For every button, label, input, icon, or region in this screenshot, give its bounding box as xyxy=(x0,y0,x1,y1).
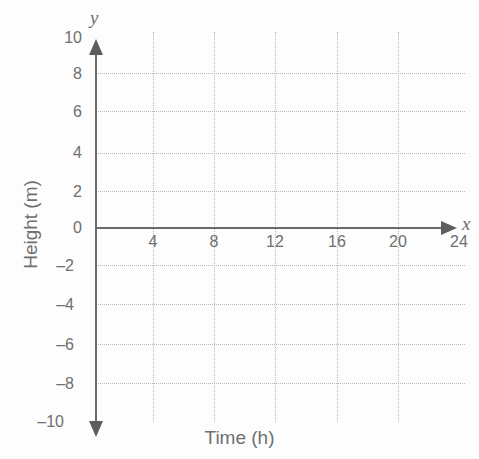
gridline-horizontal-8 xyxy=(96,73,465,74)
x-tick-label-4: 4 xyxy=(133,234,173,250)
y-tick-label-2: 2 xyxy=(36,184,82,200)
x-tick-label-24: 24 xyxy=(439,234,479,250)
gridline-horizontal-neg6 xyxy=(96,344,465,345)
y-tick-label-8: 8 xyxy=(36,66,82,82)
y-tick-label-10: 10 xyxy=(36,30,82,46)
y-axis-arrow-up-icon xyxy=(89,39,103,55)
gridline-horizontal-neg4 xyxy=(96,304,465,305)
x-tick-label-8: 8 xyxy=(194,234,234,250)
x-tick-label-20: 20 xyxy=(378,234,418,250)
plot-area: y x 4 8 12 16 20 24 10 8 6 4 2 0 –2 –4 –… xyxy=(0,0,479,459)
x-axis-title: Time (h) xyxy=(0,428,479,447)
y-tick-label-6: 6 xyxy=(36,104,82,120)
y-tick-label-4: 4 xyxy=(36,145,82,161)
y-tick-label-0: 0 xyxy=(36,220,82,236)
y-axis-line xyxy=(95,54,97,422)
gridline-horizontal-4 xyxy=(96,153,465,154)
y-axis-title: Height (m) xyxy=(21,135,40,315)
gridline-horizontal-6 xyxy=(96,111,465,112)
gridline-horizontal-2 xyxy=(96,191,465,192)
y-axis-letter: y xyxy=(90,8,98,27)
x-tick-label-12: 12 xyxy=(255,234,295,250)
gridline-horizontal-neg2 xyxy=(96,265,465,266)
gridline-horizontal-neg8 xyxy=(96,383,465,384)
chart-screenshot: y x 4 8 12 16 20 24 10 8 6 4 2 0 –2 –4 –… xyxy=(0,0,479,459)
x-tick-label-16: 16 xyxy=(317,234,357,250)
y-tick-label-neg6: –6 xyxy=(28,337,74,353)
x-axis-letter: x xyxy=(462,214,470,233)
y-tick-label-neg8: –8 xyxy=(28,376,74,392)
x-axis-line xyxy=(95,227,443,229)
